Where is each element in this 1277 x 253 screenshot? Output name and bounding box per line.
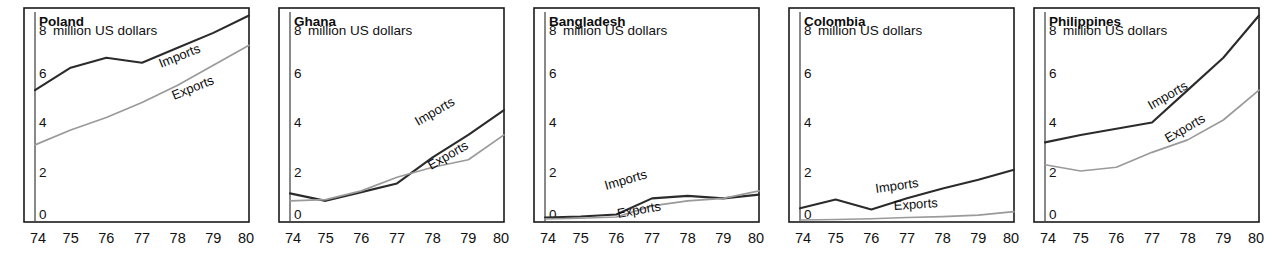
x-tick-label: 75	[63, 230, 79, 246]
series-annotation-exports: Exports	[893, 195, 939, 213]
y-tick-label: 2	[804, 165, 812, 180]
chart-panel-ghana: 02468million US dollarsGhanaImportsExpor…	[266, 0, 521, 253]
plot-frame	[1034, 8, 1259, 222]
x-tick-label: 75	[573, 230, 589, 246]
x-tick-label: 76	[863, 230, 879, 246]
x-tick-label: 78	[680, 230, 696, 246]
x-tick-label: 80	[1003, 230, 1019, 246]
small-multiples-figure: 02468million US dollarsPolandImportsExpo…	[0, 0, 1277, 253]
chart-panel-colombia: 02468million US dollarsColombiaImportsEx…	[776, 0, 1031, 253]
x-tick-label: 76	[608, 230, 624, 246]
x-tick-label: 74	[30, 230, 46, 246]
y-tick-label: 0	[39, 207, 47, 222]
x-tick-label: 79	[715, 230, 731, 246]
chart-panel-bangladesh: 02468million US dollarsBangladeshImports…	[521, 0, 776, 253]
y-tick-label: 4	[804, 115, 812, 130]
x-tick-label: 76	[353, 230, 369, 246]
x-tick-label: 80	[493, 230, 509, 246]
x-tick-label: 79	[460, 230, 476, 246]
x-tick-label: 77	[1144, 230, 1160, 246]
plot-frame	[24, 8, 249, 222]
x-tick-label: 78	[425, 230, 441, 246]
y-tick-label: 0	[1049, 207, 1057, 222]
x-tick-label: 80	[1248, 230, 1264, 246]
x-tick-label: 79	[205, 230, 221, 246]
y-tick-label: 6	[1049, 66, 1057, 81]
panel-title: Poland	[39, 14, 84, 29]
x-tick-label: 77	[134, 230, 150, 246]
y-tick-label: 2	[39, 165, 47, 180]
y-tick-label: 4	[294, 115, 302, 130]
y-tick-label: 6	[39, 66, 47, 81]
y-tick-label: 2	[549, 165, 557, 180]
x-tick-label: 77	[389, 230, 405, 246]
x-tick-label: 74	[795, 230, 811, 246]
x-tick-label: 74	[285, 230, 301, 246]
chart-panel-philippines: 02468million US dollarsPhilippinesImport…	[1021, 0, 1276, 253]
y-tick-label: 6	[294, 66, 302, 81]
x-tick-label: 79	[970, 230, 986, 246]
y-tick-label: 0	[294, 207, 302, 222]
plot-frame	[279, 8, 504, 222]
x-tick-label: 78	[170, 230, 186, 246]
x-tick-label: 80	[748, 230, 764, 246]
x-tick-label: 78	[1180, 230, 1196, 246]
panel-title: Philippines	[1049, 14, 1121, 29]
x-tick-label: 77	[644, 230, 660, 246]
x-tick-label: 75	[828, 230, 844, 246]
plot-frame	[534, 8, 759, 222]
panel-title: Colombia	[804, 14, 866, 29]
y-tick-label: 2	[294, 165, 302, 180]
x-tick-label: 78	[935, 230, 951, 246]
x-tick-label: 76	[1108, 230, 1124, 246]
y-tick-label: 4	[1049, 115, 1057, 130]
panel-title: Bangladesh	[549, 14, 626, 29]
x-tick-label: 76	[98, 230, 114, 246]
x-tick-label: 74	[540, 230, 556, 246]
chart-panel-poland: 02468million US dollarsPolandImportsExpo…	[11, 0, 266, 253]
x-tick-label: 77	[899, 230, 915, 246]
y-tick-label: 4	[39, 115, 47, 130]
x-tick-label: 80	[238, 230, 254, 246]
x-tick-label: 74	[1040, 230, 1056, 246]
y-tick-label: 6	[804, 66, 812, 81]
x-tick-label: 75	[318, 230, 334, 246]
x-tick-label: 79	[1215, 230, 1231, 246]
panel-title: Ghana	[294, 14, 337, 29]
y-tick-label: 4	[549, 115, 557, 130]
x-tick-label: 75	[1073, 230, 1089, 246]
y-tick-label: 6	[549, 66, 557, 81]
y-tick-label: 2	[1049, 165, 1057, 180]
